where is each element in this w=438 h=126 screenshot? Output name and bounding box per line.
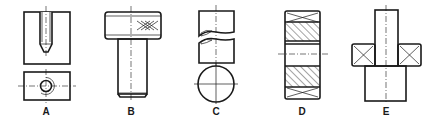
- label-a: A: [36, 106, 56, 117]
- part-d-bush-section: [278, 11, 328, 99]
- knurl-mark: [137, 21, 158, 30]
- part-c-shaft-with-section: [194, 5, 238, 104]
- part-a-section-view: [24, 6, 70, 64]
- part-e-stepped-shaft: [352, 5, 421, 104]
- label-c: C: [206, 106, 226, 117]
- label-d: D: [292, 106, 312, 117]
- label-e: E: [376, 106, 396, 117]
- label-b: B: [121, 106, 141, 117]
- part-b-knurled-pin: [105, 6, 161, 101]
- part-a-plan-view: [18, 69, 76, 103]
